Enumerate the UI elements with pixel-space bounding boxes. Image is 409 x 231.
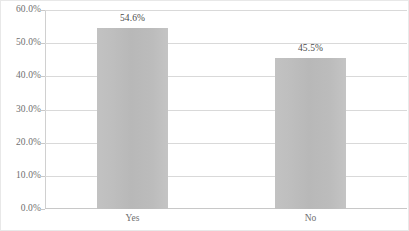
x-axis-category-label-no: No [275,214,346,224]
bar-chart: 60.0% 50.0% 40.0% 30.0% 20.0% 10.0% 0.0%… [0,0,409,231]
bar-value-label-no: 45.5% [275,44,346,54]
plot-area [45,10,407,209]
y-axis-tick-label-10: 10.0% [3,171,41,181]
y-axis-labels: 60.0% 50.0% 40.0% 30.0% 20.0% 10.0% 0.0% [1,1,41,231]
gridline-60 [45,10,407,11]
x-axis-category-label-yes: Yes [97,214,168,224]
y-axis-tick-label-20: 20.0% [3,138,41,148]
bar-value-label-yes: 54.6% [97,14,168,24]
y-axis-tick-mark-0 [40,209,45,210]
y-axis-tick-label-40: 40.0% [3,72,41,82]
y-axis-tick-label-30: 30.0% [3,105,41,115]
y-axis-tick-label-60: 60.0% [3,5,41,15]
y-axis-tick-label-50: 50.0% [3,38,41,48]
bar-yes[interactable] [97,28,168,209]
bar-no[interactable] [275,58,346,209]
y-axis-tick-label-0: 0.0% [3,204,41,214]
